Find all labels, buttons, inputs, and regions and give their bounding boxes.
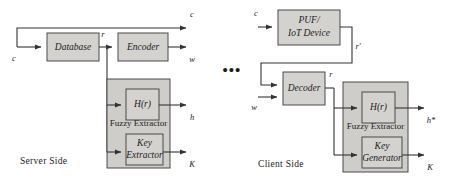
client-signal-c-label: c [254, 8, 258, 18]
server-key-extractor-label-line1: Key [136, 138, 153, 148]
client-hash-label: H(r) [369, 102, 387, 113]
client-signal-h-star-label: h* [427, 115, 436, 125]
client-side-label: Client Side [258, 159, 304, 169]
client-signal-r-prime-label: r' [355, 41, 360, 51]
block-diagram: Database r Encoder w c c Fuzzy Extractor… [0, 0, 449, 183]
client-signal-w-label: w [251, 102, 257, 112]
server-signal-K-label: K [188, 159, 196, 169]
server-database-label: Database [54, 42, 91, 52]
client-puf-label-line2: IoT Device [287, 28, 330, 38]
server-signal-c-in-label: c [12, 53, 16, 63]
diagram-canvas: Database r Encoder w c c Fuzzy Extractor… [0, 0, 449, 183]
server-key-extractor-label-line2: Extractor [125, 150, 163, 160]
client-key-generator-label-line2: Generator [362, 153, 402, 163]
server-hash-label: H(r) [133, 99, 151, 110]
server-signal-c-out-label: c [190, 9, 194, 19]
server-side-label: Server Side [20, 156, 67, 166]
client-key-generator-label-line1: Key [374, 141, 391, 151]
channel-separator-dots: ••• [223, 62, 242, 78]
server-encoder-label: Encoder [126, 42, 159, 52]
server-signal-w-label: w [189, 54, 195, 64]
client-signal-K-label: K [426, 162, 434, 172]
client-signal-r-label: r [329, 69, 333, 79]
client-puf-label-line1: PUF/ [297, 15, 320, 25]
server-signal-h-label: h [190, 112, 194, 122]
client-decoder-label: Decoder [287, 83, 321, 93]
server-signal-r-label: r [101, 29, 105, 39]
